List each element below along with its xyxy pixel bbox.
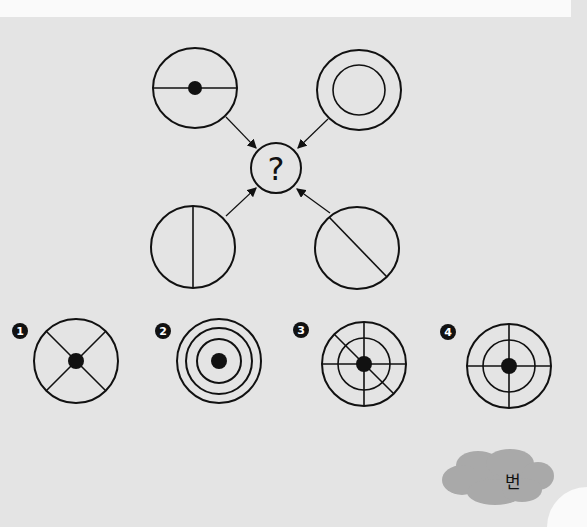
option-3-number: 3 — [297, 324, 305, 337]
input-bottom-right — [315, 207, 399, 289]
answer-cloud — [442, 449, 554, 505]
input-top-right — [317, 50, 401, 130]
option-1-number: 1 — [16, 325, 24, 338]
puzzle-diagram: ? 1 2 3 4 — [0, 0, 587, 527]
question-mark: ? — [268, 150, 285, 188]
option-3-figure[interactable] — [322, 322, 406, 406]
option-2-number: 2 — [159, 325, 167, 338]
input-top-left — [153, 48, 237, 128]
answer-label: 번 — [505, 468, 521, 493]
option-4-number: 4 — [444, 326, 452, 339]
option-2-figure[interactable] — [177, 319, 261, 403]
option-4-figure[interactable] — [467, 324, 551, 408]
option-1-figure[interactable] — [34, 319, 118, 403]
input-bottom-left — [151, 206, 235, 288]
